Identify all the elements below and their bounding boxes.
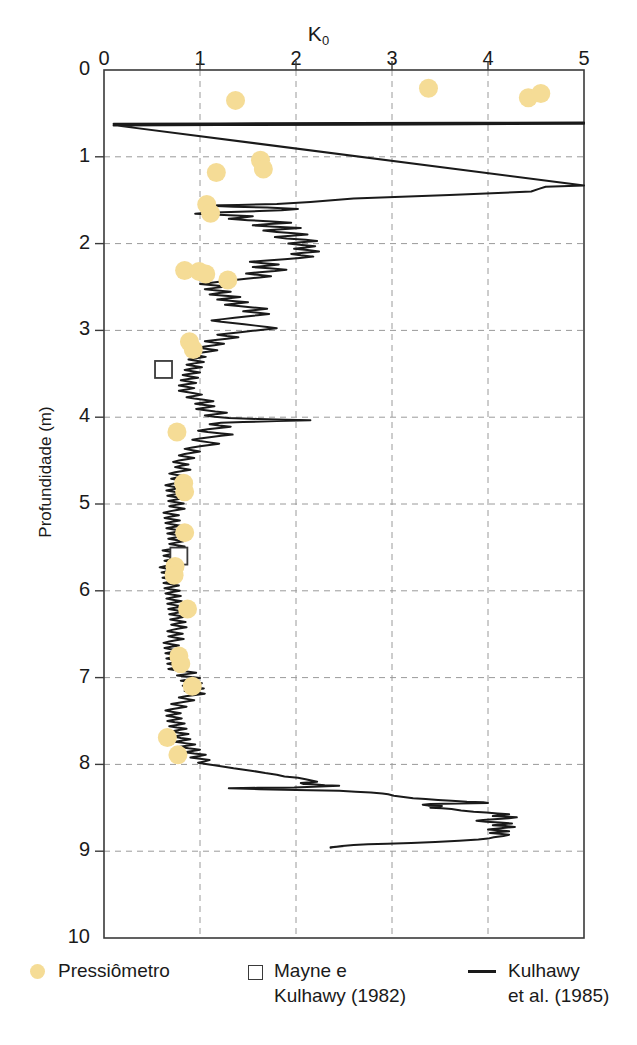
legend-circle-icon — [30, 960, 45, 979]
legend-label: Pressiômetro — [58, 958, 170, 983]
legend-square-icon — [248, 960, 263, 980]
chart-legend: PressiômetroMayne e Kulhawy (1982)Kulhaw… — [0, 958, 637, 1038]
legend-line-icon — [468, 960, 496, 973]
chart-figure: K0 Profundidade (m) 012345 012345678910 … — [0, 0, 637, 1045]
legend-label: Mayne e Kulhawy (1982) — [274, 958, 406, 1008]
series-pressiometro-points — [158, 79, 550, 765]
legend-item-3: Kulhawy et al. (1985) — [468, 958, 609, 1008]
legend-item-1: Pressiômetro — [30, 958, 170, 983]
legend-item-2: Mayne e Kulhawy (1982) — [248, 958, 406, 1008]
legend-label: Kulhawy et al. (1985) — [508, 958, 609, 1008]
axis-ticks — [95, 61, 488, 851]
plot-canvas — [0, 0, 637, 1045]
